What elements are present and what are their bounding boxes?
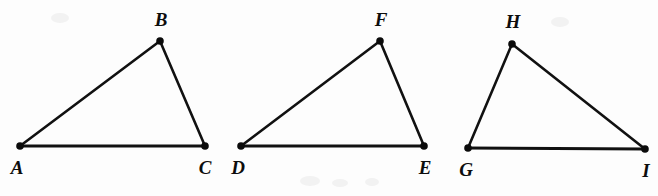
side-IG bbox=[468, 148, 645, 149]
vertex-dot-h bbox=[508, 40, 516, 48]
vertex-label-i: I bbox=[641, 160, 650, 181]
vertex-dot-g bbox=[464, 144, 472, 152]
paper-speck bbox=[365, 178, 379, 186]
paper-speck bbox=[551, 17, 569, 27]
vertex-label-e: E bbox=[418, 157, 432, 178]
triangles-diagram: A B C D F E G H I bbox=[0, 0, 658, 196]
side-GH bbox=[468, 44, 512, 148]
vertex-dot-c bbox=[201, 142, 209, 150]
paper-artifacts bbox=[51, 13, 569, 187]
vertex-label-d: D bbox=[230, 157, 245, 178]
vertex-dot-b bbox=[156, 37, 164, 45]
vertex-label-b: B bbox=[154, 9, 168, 30]
vertex-label-a: A bbox=[10, 157, 24, 178]
vertex-label-h: H bbox=[505, 11, 522, 32]
paper-speck bbox=[332, 179, 348, 187]
side-FE bbox=[380, 41, 424, 146]
vertex-dot-f bbox=[376, 37, 384, 45]
side-AB bbox=[20, 41, 160, 146]
triangle-def: D F E bbox=[230, 9, 431, 178]
side-BC bbox=[160, 41, 205, 146]
paper-speck bbox=[51, 13, 69, 23]
vertex-label-c: C bbox=[199, 157, 212, 178]
vertex-label-g: G bbox=[459, 159, 473, 180]
vertex-dot-d bbox=[237, 142, 245, 150]
triangle-ghi: G H I bbox=[459, 11, 650, 181]
vertex-dot-a bbox=[16, 142, 24, 150]
paper-speck bbox=[300, 176, 320, 186]
vertex-dot-e bbox=[420, 142, 428, 150]
vertex-label-f: F bbox=[374, 9, 388, 30]
geometry-figure-canvas: A B C D F E G H I bbox=[0, 0, 658, 196]
vertex-dot-i bbox=[641, 145, 649, 153]
triangle-abc: A B C bbox=[10, 9, 212, 178]
side-HI bbox=[512, 44, 645, 149]
side-DF bbox=[241, 41, 380, 146]
